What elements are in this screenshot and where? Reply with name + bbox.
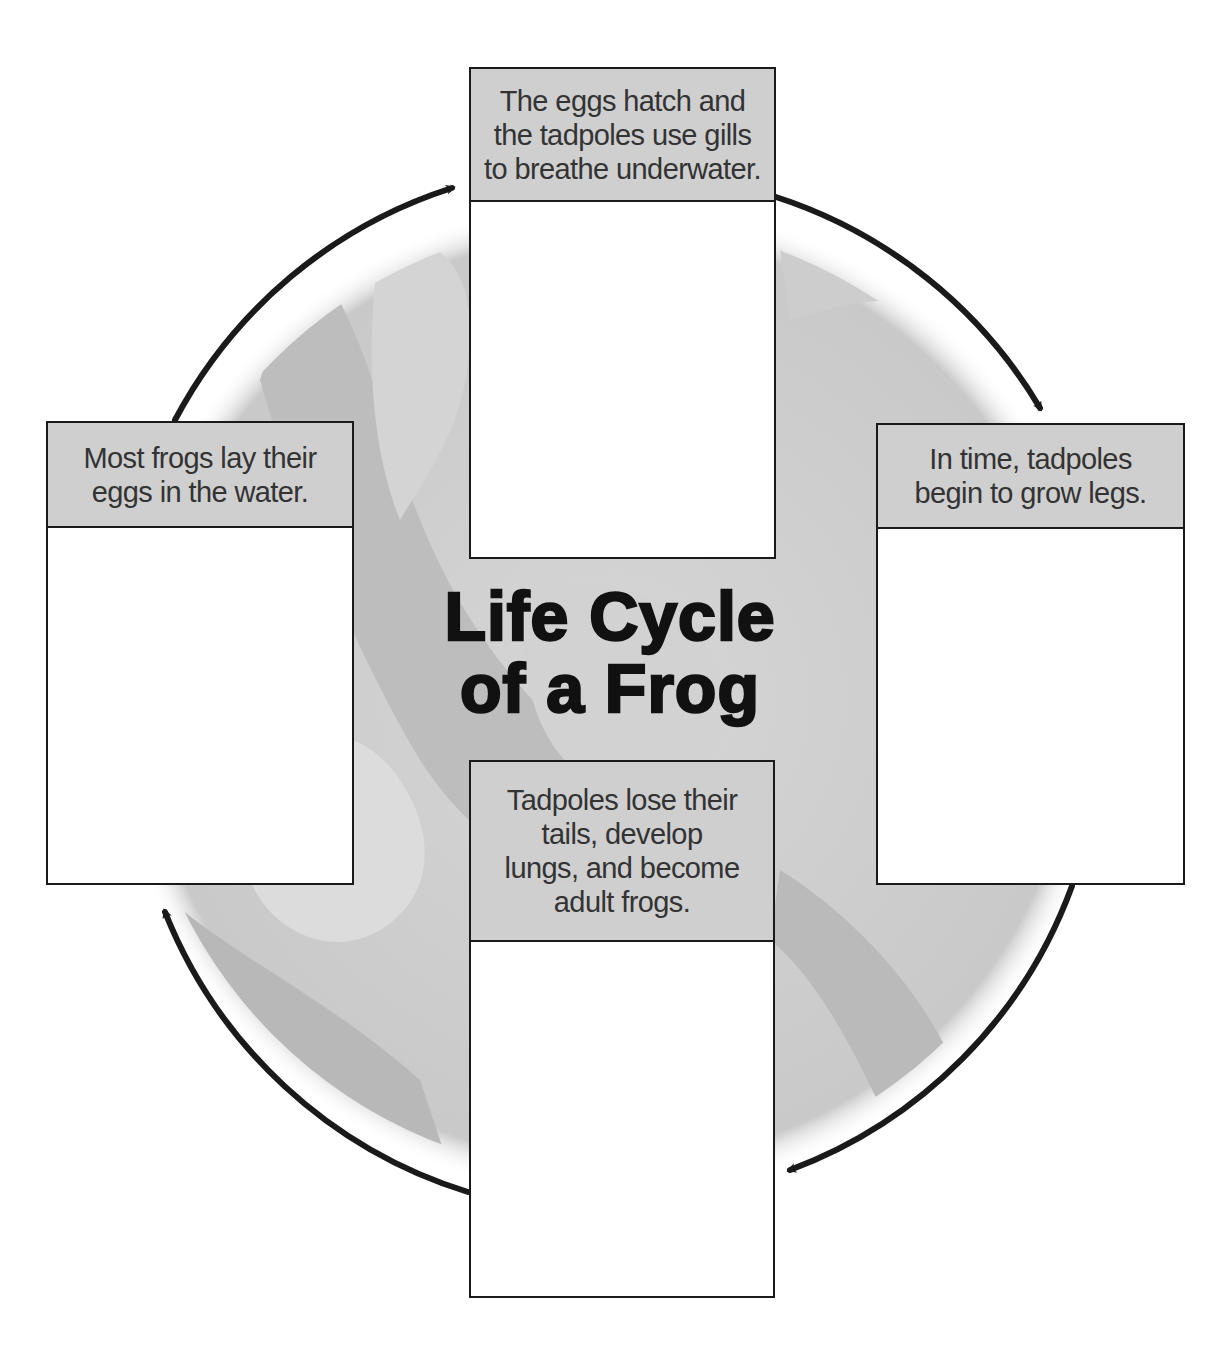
stage-answer-area-right[interactable] — [878, 529, 1183, 883]
stage-box-right: In time, tadpoles begin to grow legs. — [876, 423, 1185, 885]
stage-header-right: In time, tadpoles begin to grow legs. — [878, 425, 1183, 529]
stage-text-line: to breathe underwater. — [484, 152, 761, 186]
stage-text-line: eggs in the water. — [84, 475, 317, 509]
stage-text-line: begin to grow legs. — [914, 476, 1146, 510]
stage-box-left: Most frogs lay their eggs in the water. — [46, 421, 354, 885]
stage-text-line: lungs, and become — [505, 851, 740, 885]
stage-text-line: The eggs hatch and — [484, 84, 761, 118]
stage-header-left: Most frogs lay their eggs in the water. — [48, 423, 352, 528]
stage-text-line: adult frogs. — [505, 885, 740, 919]
title-line-1: Life Cycle — [380, 580, 840, 652]
stage-text-line: tails, develop — [505, 817, 740, 851]
stage-answer-area-left[interactable] — [48, 528, 352, 883]
stage-text-line: the tadpoles use gills — [484, 118, 761, 152]
stage-box-bottom: Tadpoles lose their tails, develop lungs… — [469, 760, 775, 1298]
stage-box-top: The eggs hatch and the tadpoles use gill… — [469, 67, 776, 559]
stage-header-bottom: Tadpoles lose their tails, develop lungs… — [471, 762, 773, 942]
stage-header-top: The eggs hatch and the tadpoles use gill… — [471, 69, 774, 202]
stage-answer-area-bottom[interactable] — [471, 942, 773, 1296]
stage-text-line: In time, tadpoles — [914, 442, 1146, 476]
stage-text-line: Most frogs lay their — [84, 441, 317, 475]
stage-answer-area-top[interactable] — [471, 202, 774, 557]
stage-text-line: Tadpoles lose their — [505, 783, 740, 817]
diagram-title: Life Cycle of a Frog — [380, 580, 840, 724]
title-line-2: of a Frog — [380, 652, 840, 724]
